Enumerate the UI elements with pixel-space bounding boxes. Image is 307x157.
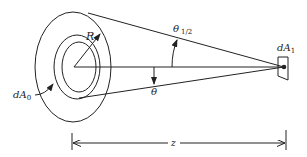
half-angle-label: θ1/2: [173, 23, 192, 36]
half-angle-arc: [172, 40, 177, 67]
target-area-label: dA1: [277, 42, 295, 55]
source-area-label: dA0: [13, 89, 31, 102]
diagram-canvas: R dA0 dA1 θ1/2 θ z: [0, 0, 307, 157]
target-point-dot: [282, 65, 287, 70]
distance-label: z: [170, 138, 176, 148]
angle-label: θ: [151, 86, 157, 97]
radius-label: R: [85, 30, 94, 43]
upper-edge-ray: [88, 13, 284, 67]
